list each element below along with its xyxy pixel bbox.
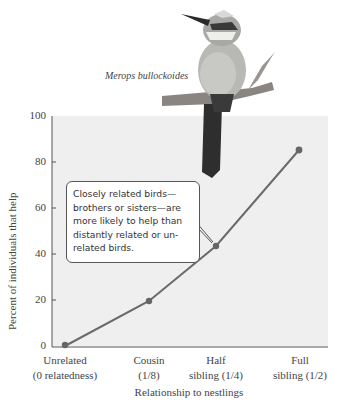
- y-tick-label: 80: [20, 155, 46, 167]
- callout-line: Closely related birds—: [73, 187, 193, 201]
- y-tick-label: 100: [20, 109, 46, 121]
- x-axis-label: Relationship to nestlings: [0, 386, 338, 398]
- point-full-sibling: [296, 147, 303, 154]
- callout-box: Closely related birds— brothers or siste…: [66, 181, 200, 263]
- y-tick-label: 20: [20, 293, 46, 305]
- y-ticks: [52, 162, 56, 300]
- callout-line: related birds.: [73, 241, 193, 255]
- y-axis-label: Percent of individuals that help: [6, 193, 18, 330]
- y-tick-label: 0: [20, 339, 46, 351]
- x-category-unrelated: Unrelated (0 relatedness): [25, 353, 105, 383]
- y-tick-label: 40: [20, 247, 46, 259]
- callout-line: brothers or sisters—are: [73, 201, 193, 215]
- x-category-full-sibling: Full sibling (1/2): [262, 353, 338, 383]
- point-cousin: [146, 298, 152, 304]
- point-unrelated: [62, 342, 68, 348]
- callout-line: distantly related or un-: [73, 228, 193, 242]
- callout-line: more likely to help than: [73, 214, 193, 228]
- x-category-cousin: Cousin (1/8): [119, 353, 179, 383]
- point-half-sibling: [213, 243, 219, 249]
- x-category-half-sibling: Half sibling (1/4): [181, 353, 251, 383]
- y-tick-label: 60: [20, 201, 46, 213]
